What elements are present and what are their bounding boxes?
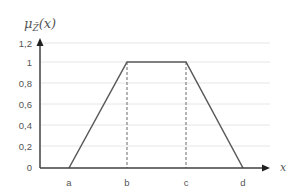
svg-text:0,4: 0,4 (19, 120, 32, 131)
axes (40, 46, 265, 168)
svg-text:0,8: 0,8 (19, 78, 32, 89)
membership-line (69, 62, 243, 168)
x-axis-arrow-icon (262, 165, 270, 172)
svg-text:a: a (66, 177, 72, 188)
membership-chart: μZ̃(x) 0 0,2 0,4 0,6 0,8 1 1,2 a b c d (0, 0, 296, 191)
dashed-guides (127, 62, 186, 168)
y-tick-labels: 0 0,2 0,4 0,6 0,8 1 1,2 (19, 38, 32, 173)
svg-text:0: 0 (27, 162, 32, 173)
svg-text:0,2: 0,2 (19, 141, 32, 152)
gridlines (41, 43, 270, 146)
x-tick-labels: a b c d (66, 177, 245, 188)
svg-text:c: c (184, 177, 189, 188)
svg-text:b: b (124, 177, 129, 188)
svg-text:0,6: 0,6 (19, 99, 32, 110)
svg-text:1: 1 (27, 57, 32, 68)
svg-text:1,2: 1,2 (19, 38, 32, 49)
y-axis-arrow-icon (37, 38, 44, 46)
chart-title: μZ̃(x) (24, 16, 56, 33)
svg-text:d: d (240, 177, 245, 188)
x-axis-label: x (280, 161, 287, 174)
